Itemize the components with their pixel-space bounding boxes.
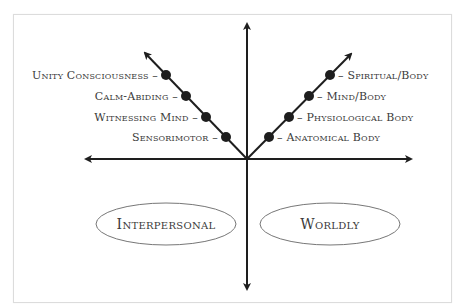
dot-sensorimotor xyxy=(221,132,231,142)
dot-calm-abiding xyxy=(181,91,191,101)
label-mind-body: – Mind/Body xyxy=(317,90,387,103)
dot-physiological-body xyxy=(284,112,294,122)
label-interpersonal: Interpersonal xyxy=(117,216,216,232)
axes-diagram: Unity Consciousness – Calm-Abiding – Wit… xyxy=(0,0,464,308)
label-physiological-body: – Physiological Body xyxy=(297,111,414,124)
label-calm-abiding: Calm-Abiding – xyxy=(95,90,178,103)
label-worldly: Worldly xyxy=(300,216,360,232)
label-witnessing-mind: Witnessing Mind – xyxy=(94,111,198,124)
label-unity-consciousness: Unity Consciousness – xyxy=(32,69,158,82)
label-spiritual-body: – Spiritual/Body xyxy=(338,69,429,82)
dot-unity-consciousness xyxy=(161,70,171,80)
dot-spiritual-body xyxy=(325,70,335,80)
label-sensorimotor: Sensorimotor – xyxy=(132,131,218,144)
label-anatomical-body: – Anatomical Body xyxy=(277,131,380,144)
dot-anatomical-body xyxy=(264,132,274,142)
dot-witnessing-mind xyxy=(201,112,211,122)
dot-mind-body xyxy=(304,91,314,101)
